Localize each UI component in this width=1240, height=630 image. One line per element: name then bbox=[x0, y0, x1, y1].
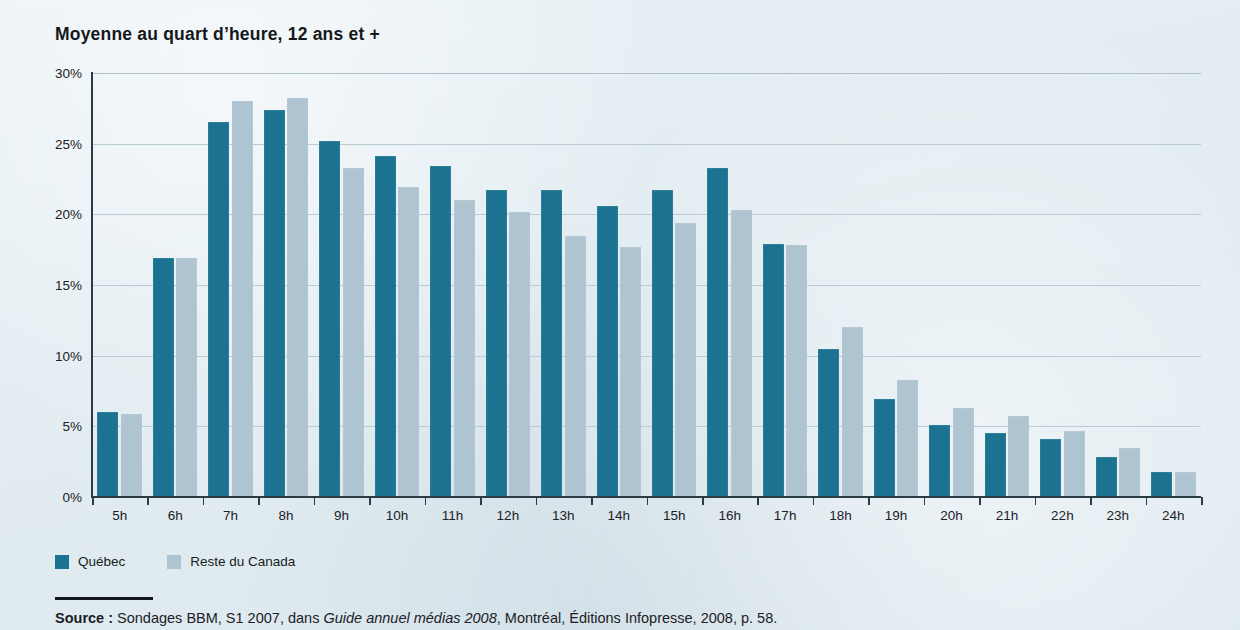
bar-9h-quebec[interactable] bbox=[319, 141, 340, 497]
y-axis-tick-labels: 30%25%20%15%10%5%0% bbox=[20, 0, 82, 630]
x-tick-label-11h: 11h bbox=[442, 508, 464, 523]
x-tick-label-6h: 6h bbox=[168, 508, 183, 523]
bar-12h-reste-du-canada[interactable] bbox=[509, 212, 530, 497]
bar-7h-reste-du-canada[interactable] bbox=[232, 101, 253, 497]
bar-group-10h bbox=[375, 73, 420, 497]
x-tick-12h bbox=[480, 497, 482, 505]
bar-group-13h bbox=[541, 73, 586, 497]
bar-5h-quebec[interactable] bbox=[97, 412, 118, 497]
x-tick-end bbox=[1201, 497, 1203, 505]
legend-label: Reste du Canada bbox=[190, 554, 295, 569]
x-tick-label-24h: 24h bbox=[1162, 508, 1185, 523]
bar-15h-quebec[interactable] bbox=[652, 190, 673, 497]
plot-area bbox=[92, 73, 1201, 497]
bar-18h-quebec[interactable] bbox=[818, 349, 839, 497]
x-tick-16h bbox=[702, 497, 704, 505]
bar-14h-quebec[interactable] bbox=[597, 206, 618, 497]
bar-24h-quebec[interactable] bbox=[1151, 472, 1172, 497]
y-tick-label-25%: 25% bbox=[26, 136, 82, 151]
x-tick-label-12h: 12h bbox=[497, 508, 520, 523]
gridline-15% bbox=[92, 285, 1201, 286]
gridline-25% bbox=[92, 144, 1201, 145]
bar-11h-quebec[interactable] bbox=[430, 166, 451, 497]
gridline-20% bbox=[92, 214, 1201, 215]
x-tick-label-22h: 22h bbox=[1051, 508, 1074, 523]
source-divider-rule bbox=[55, 597, 153, 600]
y-tick-label-10%: 10% bbox=[26, 348, 82, 363]
y-axis-line bbox=[91, 72, 93, 498]
x-tick-9h bbox=[314, 497, 316, 505]
bar-group-18h bbox=[818, 73, 863, 497]
bar-chart-figure: Moyenne au quart d’heure, 12 ans et + 30… bbox=[0, 0, 1240, 630]
bar-group-8h bbox=[264, 73, 309, 497]
bar-group-17h bbox=[763, 73, 808, 497]
y-tick-label-30%: 30% bbox=[26, 66, 82, 81]
bar-21h-quebec[interactable] bbox=[985, 433, 1006, 497]
x-tick-5h bbox=[92, 497, 94, 505]
legend-swatch-icon bbox=[55, 555, 69, 569]
bar-22h-quebec[interactable] bbox=[1040, 439, 1061, 497]
x-tick-label-16h: 16h bbox=[718, 508, 741, 523]
source-text-after: , Montréal, Éditions Infopresse, 2008, p… bbox=[497, 610, 778, 626]
bar-12h-quebec[interactable] bbox=[486, 190, 507, 497]
bar-13h-quebec[interactable] bbox=[541, 190, 562, 497]
x-tick-7h bbox=[203, 497, 205, 505]
bar-16h-quebec[interactable] bbox=[707, 168, 728, 497]
bar-8h-reste-du-canada[interactable] bbox=[287, 98, 308, 497]
bar-8h-quebec[interactable] bbox=[264, 110, 285, 497]
bar-group-22h bbox=[1040, 73, 1085, 497]
bar-22h-reste-du-canada[interactable] bbox=[1064, 431, 1085, 497]
bar-23h-quebec[interactable] bbox=[1096, 457, 1117, 497]
x-tick-19h bbox=[868, 497, 870, 505]
bar-18h-reste-du-canada[interactable] bbox=[842, 327, 863, 497]
bar-20h-quebec[interactable] bbox=[929, 425, 950, 497]
x-tick-22h bbox=[1035, 497, 1037, 505]
bar-13h-reste-du-canada[interactable] bbox=[565, 236, 586, 497]
x-tick-18h bbox=[813, 497, 815, 505]
y-tick-label-15%: 15% bbox=[26, 278, 82, 293]
chart-title: Moyenne au quart d’heure, 12 ans et + bbox=[55, 24, 380, 45]
bar-group-21h bbox=[985, 73, 1030, 497]
x-tick-label-5h: 5h bbox=[112, 508, 127, 523]
bar-11h-reste-du-canada[interactable] bbox=[454, 200, 475, 497]
bar-6h-reste-du-canada[interactable] bbox=[176, 258, 197, 497]
bar-19h-quebec[interactable] bbox=[874, 399, 895, 497]
x-tick-label-14h: 14h bbox=[608, 508, 631, 523]
bar-14h-reste-du-canada[interactable] bbox=[620, 247, 641, 497]
bar-21h-reste-du-canada[interactable] bbox=[1008, 416, 1029, 497]
bar-10h-reste-du-canada[interactable] bbox=[398, 187, 419, 497]
bar-16h-reste-du-canada[interactable] bbox=[731, 210, 752, 497]
legend-item-quebec[interactable]: Québec bbox=[55, 554, 125, 569]
bar-9h-reste-du-canada[interactable] bbox=[343, 168, 364, 497]
x-tick-23h bbox=[1090, 497, 1092, 505]
x-tick-15h bbox=[647, 497, 649, 505]
bar-23h-reste-du-canada[interactable] bbox=[1119, 448, 1140, 497]
bar-6h-quebec[interactable] bbox=[153, 258, 174, 497]
bar-group-23h bbox=[1096, 73, 1141, 497]
x-tick-10h bbox=[369, 497, 371, 505]
source-note: Source : Sondages BBM, S1 2007, dans Gui… bbox=[55, 610, 777, 626]
x-tick-label-17h: 17h bbox=[774, 508, 797, 523]
bar-19h-reste-du-canada[interactable] bbox=[897, 380, 918, 497]
bar-5h-reste-du-canada[interactable] bbox=[121, 414, 142, 497]
bar-17h-quebec[interactable] bbox=[763, 244, 784, 497]
bar-7h-quebec[interactable] bbox=[208, 122, 229, 497]
x-tick-label-21h: 21h bbox=[996, 508, 1019, 523]
legend-item-reste-du-canada[interactable]: Reste du Canada bbox=[167, 554, 295, 569]
gridline-30% bbox=[92, 73, 1201, 74]
bar-group-6h bbox=[153, 73, 198, 497]
y-tick-label-5%: 5% bbox=[26, 419, 82, 434]
bar-17h-reste-du-canada[interactable] bbox=[786, 245, 807, 497]
y-tick-label-0%: 0% bbox=[26, 490, 82, 505]
bar-24h-reste-du-canada[interactable] bbox=[1175, 472, 1196, 497]
bar-group-12h bbox=[486, 73, 531, 497]
bar-group-9h bbox=[319, 73, 364, 497]
bar-group-24h bbox=[1151, 73, 1196, 497]
bar-20h-reste-du-canada[interactable] bbox=[953, 408, 974, 497]
bar-15h-reste-du-canada[interactable] bbox=[675, 223, 696, 497]
source-text-before: Sondages BBM, S1 2007, dans bbox=[113, 610, 323, 626]
legend-swatch-icon bbox=[167, 555, 181, 569]
bar-10h-quebec[interactable] bbox=[375, 156, 396, 497]
source-label: Source : bbox=[55, 610, 113, 626]
bar-group-20h bbox=[929, 73, 974, 497]
